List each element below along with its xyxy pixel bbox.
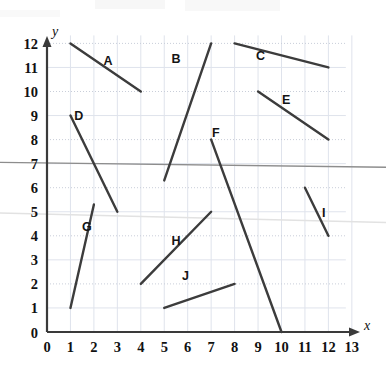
x-tick-label: 10: [274, 339, 289, 355]
line-segment-j: [164, 284, 234, 308]
x-tick-label: 4: [137, 339, 144, 355]
x-axis-arrowhead: [349, 328, 360, 337]
y-tick-label: 2: [31, 276, 38, 292]
segment-label-a: A: [103, 54, 112, 68]
x-tick-label: 0: [43, 339, 50, 355]
y-axis-arrowhead: [43, 36, 52, 47]
y-tick-label: 0: [31, 325, 38, 341]
x-tick-label: 6: [184, 339, 191, 355]
segment-label-i: I: [322, 206, 325, 220]
x-tick-label: 13: [345, 339, 360, 355]
segment-label-h: H: [171, 234, 180, 248]
y-tick-label: 3: [31, 252, 38, 268]
y-tick-label: 9: [31, 108, 38, 124]
x-tick-label: 8: [231, 339, 238, 355]
x-tick-label: 2: [90, 339, 97, 355]
y-tick-label: 12: [24, 36, 39, 52]
y-axis-label: y: [50, 24, 59, 39]
x-tick-label: 1: [67, 339, 74, 355]
y-axis-tick-labels: 0123456789101112: [24, 36, 39, 341]
y-tick-label: 5: [31, 204, 38, 220]
x-tick-label: 12: [321, 339, 336, 355]
x-axis-tick-labels: 012345678910111213: [43, 339, 359, 355]
y-tick-label: 1: [31, 300, 38, 316]
y-tick-label: 8: [31, 132, 38, 148]
segment-label-d: D: [74, 109, 83, 123]
line-segments-group: [70, 43, 328, 332]
segment-label-g: G: [82, 220, 92, 234]
x-tick-label: 7: [208, 339, 215, 355]
segment-label-j: J: [182, 269, 189, 283]
segment-label-b: B: [171, 52, 180, 66]
segment-label-c: C: [256, 49, 265, 63]
coordinate-grid-chart: y x 012345678910111213 0123456789101112 …: [0, 0, 386, 367]
x-tick-label: 5: [161, 339, 168, 355]
y-tick-label: 10: [24, 84, 39, 100]
x-tick-label: 9: [254, 339, 261, 355]
x-axis-label: x: [363, 318, 371, 333]
axes-group: [43, 36, 361, 337]
vertical-gridlines: [70, 35, 351, 332]
y-tick-label: 4: [31, 228, 38, 244]
scan-smudge-group: [0, 0, 280, 17]
y-tick-label: 11: [24, 60, 38, 76]
x-tick-label: 3: [114, 339, 121, 355]
y-tick-label: 6: [31, 180, 38, 196]
x-tick-label: 11: [298, 339, 312, 355]
segment-label-f: F: [212, 126, 220, 140]
chart-canvas: y x 012345678910111213 0123456789101112 …: [0, 0, 386, 367]
y-tick-label: 7: [31, 156, 38, 172]
segment-label-e: E: [282, 93, 290, 107]
